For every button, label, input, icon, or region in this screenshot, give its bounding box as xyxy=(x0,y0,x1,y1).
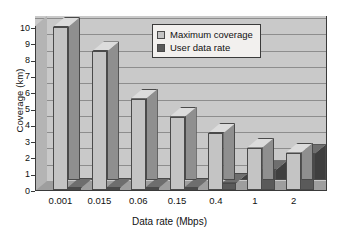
bar-user-data-rate xyxy=(67,188,81,190)
y-axis-tick-label: 10 xyxy=(8,24,30,33)
y-axis-tick-mark xyxy=(31,142,35,143)
x-axis-tick-label: 1 xyxy=(235,196,274,206)
bar-side-face xyxy=(107,41,119,180)
y-axis-tick-mark xyxy=(31,158,35,159)
bar-maximum-coverage xyxy=(92,51,107,190)
bar-maximum-coverage xyxy=(208,133,223,190)
y-axis-tick-mark xyxy=(31,61,35,62)
bar-user-data-rate xyxy=(184,188,198,190)
x-axis-line xyxy=(35,190,327,191)
bar-front-face xyxy=(53,27,68,190)
chart-legend: Maximum coverageUser data rate xyxy=(152,24,261,58)
bar-side-face xyxy=(68,17,80,180)
y-axis-tick-label: 6 xyxy=(8,89,30,98)
y-axis-tick-label: 3 xyxy=(8,138,30,147)
bar-front-face xyxy=(67,188,81,190)
y-axis-tick-label: 7 xyxy=(8,72,30,81)
bar-chart: Coverage (km) Data rate (Mbps) 012345678… xyxy=(0,0,339,235)
legend-entry-label: User data rate xyxy=(170,42,230,53)
bar-front-face xyxy=(131,99,146,190)
bar-front-face xyxy=(92,51,107,190)
bar-front-face xyxy=(222,183,236,190)
bar-front-face xyxy=(286,153,301,190)
y-axis-tick-label: 2 xyxy=(8,154,30,163)
bar-user-data-rate xyxy=(222,183,236,190)
y-axis-tick-mark xyxy=(31,191,35,192)
x-axis-title: Data rate (Mbps) xyxy=(0,216,339,227)
y-axis-tick-label: 1 xyxy=(8,170,30,179)
plot-side-wall xyxy=(35,16,47,191)
x-axis-tick-label: 0.4 xyxy=(196,196,235,206)
x-axis-tick-label: 2 xyxy=(274,196,313,206)
bar-user-data-rate xyxy=(145,188,159,190)
y-axis-tick-mark xyxy=(31,175,35,176)
bar-front-face xyxy=(170,117,185,190)
legend-entry: Maximum coverage xyxy=(157,28,253,41)
legend-swatch-icon xyxy=(157,31,165,39)
bar-maximum-coverage xyxy=(286,153,301,190)
y-axis-tick-mark xyxy=(31,126,35,127)
x-axis-tick-label: 0.06 xyxy=(119,196,158,206)
y-axis-tick-mark xyxy=(31,28,35,29)
x-axis-tick-label: 0.001 xyxy=(41,196,80,206)
x-axis-tick-label: 0.15 xyxy=(158,196,197,206)
bar-maximum-coverage xyxy=(53,27,68,190)
y-axis-tick-label: 5 xyxy=(8,105,30,114)
x-axis-tick-label: 0.015 xyxy=(80,196,119,206)
bar-maximum-coverage xyxy=(247,148,262,190)
y-axis-tick-label: 0 xyxy=(8,187,30,196)
y-axis-tick-mark xyxy=(31,93,35,94)
y-axis-tick-label: 8 xyxy=(8,56,30,65)
y-axis-tick-label: 9 xyxy=(8,40,30,49)
bar-front-face xyxy=(184,188,198,190)
y-axis-tick-label: 4 xyxy=(8,121,30,130)
y-axis-tick-mark xyxy=(31,77,35,78)
bar-user-data-rate xyxy=(106,188,120,190)
bar-front-face xyxy=(145,188,159,190)
bar-front-face xyxy=(208,133,223,190)
legend-entry: User data rate xyxy=(157,41,253,54)
bar-maximum-coverage xyxy=(131,99,146,190)
bar-side-face xyxy=(185,107,197,180)
bar-side-face xyxy=(223,123,235,180)
y-axis-tick-mark xyxy=(31,44,35,45)
bar-maximum-coverage xyxy=(170,117,185,190)
y-axis-line xyxy=(35,26,36,191)
bar-front-face xyxy=(247,148,262,190)
legend-swatch-icon xyxy=(157,44,165,52)
bar-front-face xyxy=(106,188,120,190)
bar-side-face xyxy=(146,89,158,180)
plot-right-edge xyxy=(326,16,327,191)
y-axis-tick-mark xyxy=(31,110,35,111)
legend-entry-label: Maximum coverage xyxy=(170,29,253,40)
